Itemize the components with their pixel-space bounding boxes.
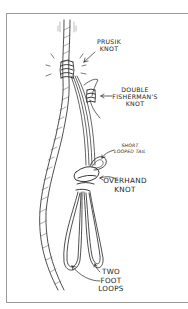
label-two-foot-loops: TWO FOOT LOOPS — [98, 268, 124, 294]
label-line: KNOT — [102, 186, 148, 195]
label-overhand-knot: OVERHAND KNOT — [102, 177, 148, 194]
label-line: DOUBLE — [112, 86, 158, 93]
main-rope — [40, 20, 76, 290]
label-line: KNOT — [92, 45, 126, 52]
prusik-knot — [46, 54, 86, 78]
double-fishermans-knot — [87, 89, 96, 102]
label-line: LOOPS — [98, 285, 124, 294]
label-prusik-knot: PRUSIK KNOT — [92, 38, 126, 52]
sling-cords — [71, 76, 100, 165]
label-line: LOOPED TAIL — [112, 149, 148, 155]
label-line: KNOT — [112, 100, 158, 107]
label-line: FISHERMAN'S — [112, 93, 158, 100]
label-short-looped-tail: SHORT LOOPED TAIL — [112, 143, 148, 154]
foot-loops — [64, 192, 103, 270]
label-double-fishermans-knot: DOUBLE FISHERMAN'S KNOT — [112, 86, 158, 107]
label-line: PRUSIK — [92, 38, 126, 45]
